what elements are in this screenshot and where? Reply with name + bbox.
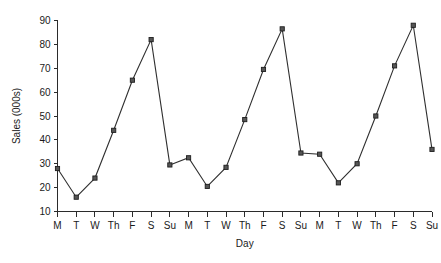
data-point xyxy=(112,128,116,132)
x-axis-tick-label: Th xyxy=(370,220,382,231)
x-axis-tick-label: S xyxy=(410,220,417,231)
x-axis-tick-label: T xyxy=(73,220,79,231)
data-point xyxy=(243,117,247,121)
y-axis-tick-label: 90 xyxy=(39,15,51,26)
data-point xyxy=(74,195,78,199)
data-point xyxy=(149,38,153,42)
y-axis-title-text: Sales (000s) xyxy=(11,88,22,144)
data-point xyxy=(186,156,190,160)
x-axis-tick-label: F xyxy=(260,220,266,231)
x-axis-tick-label: Su xyxy=(164,220,176,231)
x-axis-title: Day xyxy=(236,238,254,249)
x-axis-tick-label: Su xyxy=(426,220,438,231)
chart-canvas: 102030405060708090 MTWThFSSuMTWThFSSuMTW… xyxy=(0,0,441,263)
y-axis-tick-label: 40 xyxy=(39,134,51,145)
data-point xyxy=(318,152,322,156)
y-axis-tick-label: 20 xyxy=(39,182,51,193)
data-point xyxy=(336,181,340,185)
y-axis-tick-label: 10 xyxy=(39,206,51,217)
y-axis-title: Sales (000s) xyxy=(11,88,22,144)
data-point xyxy=(411,23,415,27)
y-axis-tick-label: 30 xyxy=(39,158,51,169)
x-axis-tick-label: F xyxy=(129,220,135,231)
data-point xyxy=(261,67,265,71)
data-point xyxy=(224,165,228,169)
data-point xyxy=(392,64,396,68)
x-axis-tick-label: M xyxy=(315,220,323,231)
x-axis-tick-label: S xyxy=(148,220,155,231)
x-axis-tick-label: W xyxy=(352,220,362,231)
x-axis-tick-label: F xyxy=(391,220,397,231)
data-point xyxy=(130,78,134,82)
x-axis-tick-label: T xyxy=(204,220,210,231)
line-chart: 102030405060708090 MTWThFSSuMTWThFSSuMTW… xyxy=(0,0,441,263)
x-axis-tick-label: M xyxy=(184,220,192,231)
x-axis-tick-label: Su xyxy=(295,220,307,231)
data-point xyxy=(430,147,434,151)
data-point xyxy=(93,176,97,180)
x-axis-tick-label: T xyxy=(335,220,341,231)
y-axis-tick-label: 80 xyxy=(39,39,51,50)
x-axis-tick-label: Th xyxy=(108,220,120,231)
y-axis-tick-label: 50 xyxy=(39,111,51,122)
series-line-sales xyxy=(58,25,433,197)
y-axis: 102030405060708090 xyxy=(39,15,57,217)
data-point xyxy=(355,162,359,166)
data-point xyxy=(299,151,303,155)
x-axis-tick-label: Th xyxy=(239,220,251,231)
y-axis-tick-label: 60 xyxy=(39,87,51,98)
x-axis-tick-label: M xyxy=(53,220,61,231)
x-axis: MTWThFSSuMTWThFSSuMTWThFSSu xyxy=(53,212,438,231)
data-point xyxy=(205,184,209,188)
data-point xyxy=(168,163,172,167)
data-point xyxy=(280,27,284,31)
x-axis-tick-label: W xyxy=(221,220,231,231)
series-sales xyxy=(58,25,433,197)
x-axis-tick-label: S xyxy=(279,220,286,231)
data-point xyxy=(374,114,378,118)
data-point xyxy=(55,166,59,170)
y-axis-tick-label: 70 xyxy=(39,63,51,74)
x-axis-title-text: Day xyxy=(236,238,254,249)
x-axis-tick-label: W xyxy=(90,220,100,231)
